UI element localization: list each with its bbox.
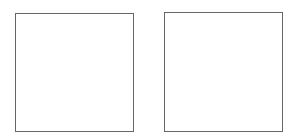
empty-panel-right — [164, 12, 283, 132]
empty-panel-left — [15, 13, 134, 132]
